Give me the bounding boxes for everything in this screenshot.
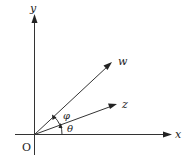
- vector-z: [35, 104, 118, 135]
- vector-z-label: z: [121, 98, 128, 111]
- vector-diagram: x y O w z θ φ: [0, 0, 191, 161]
- y-axis-label: y: [29, 2, 37, 15]
- angle-phi-arc: [52, 115, 60, 126]
- y-axis-arrow-icon: [32, 14, 38, 23]
- vector-w: [35, 62, 113, 135]
- origin-label: O: [22, 141, 31, 154]
- angle-phi-label: φ: [63, 110, 70, 121]
- vector-w-label: w: [118, 55, 128, 68]
- x-axis-label: x: [175, 128, 182, 141]
- vector-z-arrow-icon: [108, 104, 117, 110]
- angle-theta-label: θ: [67, 123, 73, 134]
- x-axis-arrow-icon: [163, 132, 172, 138]
- x-axis: [15, 132, 172, 138]
